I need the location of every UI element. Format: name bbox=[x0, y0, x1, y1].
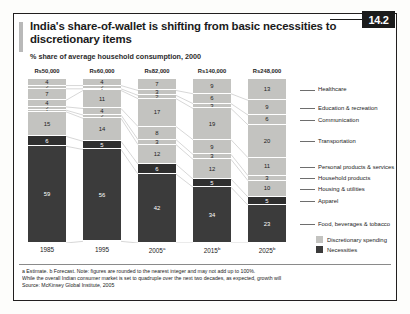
bar-segment: 9 bbox=[193, 79, 231, 94]
bar-segment: 19 bbox=[193, 108, 231, 139]
stacked-bar-plot: Rs50,00042742115659Rs60,000421114214556R… bbox=[26, 68, 316, 243]
bar-segment: 5 bbox=[193, 179, 231, 187]
category-label: Communication bbox=[318, 117, 359, 123]
legend-label-necessities: Necessities bbox=[327, 247, 357, 253]
category-leader-line bbox=[300, 120, 315, 121]
bar-segment: 11 bbox=[248, 158, 286, 176]
category-label: Transportation bbox=[318, 138, 356, 144]
stacked-bar: 42742115659 bbox=[28, 79, 66, 243]
category-label: Education & recreation bbox=[318, 105, 378, 111]
stacked-bar: 732178312642 bbox=[138, 79, 176, 243]
bar-total-label: Rs140,000 bbox=[193, 68, 231, 74]
bar-segment: 13 bbox=[248, 79, 286, 100]
legend-label-discretionary: Discretionary spending bbox=[327, 237, 387, 243]
bar-segment: 9 bbox=[248, 100, 286, 115]
legend-swatch-discretionary bbox=[316, 236, 323, 243]
bar-segment: 8 bbox=[138, 127, 176, 140]
bar-segment: 17 bbox=[138, 99, 176, 127]
bar-segment: 6 bbox=[193, 94, 231, 104]
note-line-2: While the overall Indian consumer market… bbox=[22, 275, 388, 282]
chart-notes: a Estimate. b Forecast. Note: figures ar… bbox=[22, 268, 388, 289]
bar-segment: 5 bbox=[83, 141, 121, 149]
x-axis-tick-label: 2015b bbox=[193, 246, 231, 254]
chart-legend: Discretionary spending Necessities bbox=[316, 236, 408, 256]
category-leader-line bbox=[300, 178, 315, 179]
bar-segment: 56 bbox=[83, 149, 121, 241]
bar-segment: 14 bbox=[83, 118, 121, 141]
bar-segment: 7 bbox=[138, 79, 176, 90]
category-label: Apparel bbox=[318, 198, 338, 204]
bar-segment: 20 bbox=[248, 125, 286, 158]
chart-subtitle: % share of average household consumption… bbox=[30, 52, 330, 61]
bar-segment: 6 bbox=[28, 136, 66, 146]
category-leader-line bbox=[300, 189, 315, 190]
stacked-bar: 421114214556 bbox=[83, 79, 121, 241]
bar-segment: 12 bbox=[193, 159, 231, 179]
legend-item-necessities: Necessities bbox=[316, 246, 408, 253]
bar-segment: 6 bbox=[138, 164, 176, 174]
bar-total-label: Rs82,000 bbox=[138, 68, 176, 74]
stacked-bar: 13962011310523 bbox=[248, 79, 286, 243]
legend-swatch-necessities bbox=[316, 246, 323, 253]
category-leader-line bbox=[300, 224, 315, 225]
bar-segment: 9 bbox=[193, 140, 231, 155]
category-label: Housing & utilities bbox=[318, 186, 365, 192]
legend-item-discretionary: Discretionary spending bbox=[316, 236, 408, 243]
bar-segment: 10 bbox=[248, 181, 286, 197]
bar-segment: 11 bbox=[83, 90, 121, 108]
category-label: Personal products & services bbox=[318, 164, 394, 170]
bar-total-label: Rs248,000 bbox=[248, 68, 286, 74]
category-leader-line bbox=[300, 90, 315, 91]
x-axis-tick-label: 2025b bbox=[248, 246, 286, 254]
bar-total-label: Rs50,000 bbox=[28, 68, 66, 74]
bar-segment: 34 bbox=[193, 187, 231, 243]
category-leader-line bbox=[300, 167, 315, 168]
x-axis-labels: 198519952005a2015b2025b bbox=[26, 246, 316, 258]
bar-segment: 6 bbox=[248, 115, 286, 125]
x-axis-tick-label: 2005a bbox=[138, 246, 176, 254]
category-leader-line bbox=[300, 108, 315, 109]
stacked-bar: 963199312534 bbox=[193, 79, 231, 243]
x-axis-tick-label: 1985 bbox=[28, 246, 66, 253]
note-line-1: a Estimate. b Forecast. Note: figures ar… bbox=[22, 268, 388, 275]
chart-page: India's share-of-wallet is shifting from… bbox=[0, 0, 410, 314]
category-label: Household products bbox=[318, 175, 370, 181]
category-leader-line bbox=[300, 201, 315, 202]
category-label: Food, beverages & tobacco bbox=[318, 221, 390, 227]
note-source: Source: McKinsey Global Institute, 2005 bbox=[22, 282, 388, 289]
exhibit-number-badge: 14.2 bbox=[362, 11, 395, 28]
bar-segment: 42 bbox=[138, 174, 176, 243]
title-accent-bar bbox=[19, 22, 23, 52]
bar-segment: 23 bbox=[248, 205, 286, 243]
bar-segment: 59 bbox=[28, 146, 66, 243]
x-axis-tick-label: 1995 bbox=[83, 246, 121, 253]
bar-total-label: Rs60,000 bbox=[83, 68, 121, 74]
bar-segment: 7 bbox=[28, 89, 66, 100]
page-title: India's share-of-wallet is shifting from… bbox=[30, 20, 350, 47]
bar-segment: 12 bbox=[138, 145, 176, 165]
footer-divider bbox=[19, 264, 391, 265]
bar-segment: 5 bbox=[248, 197, 286, 205]
category-label: Healthcare bbox=[318, 86, 347, 92]
category-labels: HealthcareEducation & recreationCommunic… bbox=[300, 68, 408, 248]
category-leader-line bbox=[300, 141, 315, 142]
bar-segment: 15 bbox=[28, 112, 66, 137]
